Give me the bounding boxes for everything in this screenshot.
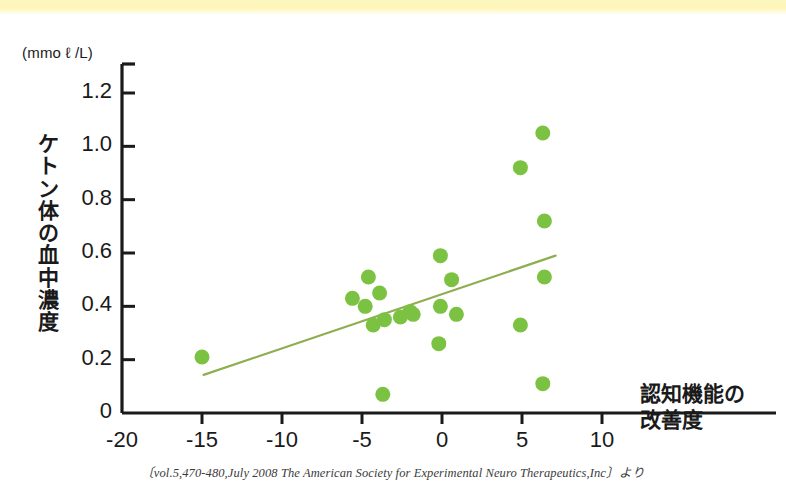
data-point (433, 299, 448, 314)
x-tick-label: -20 (92, 427, 152, 453)
data-point (537, 270, 552, 285)
x-tick-label: -10 (252, 427, 312, 453)
y-tick-label: 1.0 (64, 131, 112, 157)
y-tick-label: 0.8 (64, 185, 112, 211)
x-tick-label: 0 (412, 427, 472, 453)
x-tick-label: -5 (332, 427, 392, 453)
data-point (535, 376, 550, 391)
data-point (406, 307, 421, 322)
x-tick-label: 5 (492, 427, 552, 453)
x-tick-label: 10 (572, 427, 632, 453)
data-point (535, 126, 550, 141)
plot-canvas (0, 0, 786, 496)
x-tick-label: -15 (172, 427, 232, 453)
data-point (431, 336, 446, 351)
data-point (361, 270, 376, 285)
data-point (345, 291, 360, 306)
data-point (375, 387, 390, 402)
data-point (449, 307, 464, 322)
data-point (358, 299, 373, 314)
scatter-chart: (mmo ℓ /L) ケトン体の血中濃度 認知機能の改善度 00.20.40.6… (0, 0, 786, 496)
source-citation: 〔vol.5,470-480,July 2008 The American So… (0, 462, 786, 481)
y-tick-label: 0.6 (64, 238, 112, 264)
y-tick-label: 0 (64, 398, 112, 424)
y-tick-label: 1.2 (64, 78, 112, 104)
data-point (513, 318, 528, 333)
data-point (444, 272, 459, 287)
y-tick-label: 0.4 (64, 291, 112, 317)
y-tick-label: 0.2 (64, 345, 112, 371)
data-point (377, 312, 392, 327)
data-point (372, 286, 387, 301)
data-point (195, 350, 210, 365)
data-point (537, 214, 552, 229)
data-point (513, 160, 528, 175)
data-point (433, 248, 448, 263)
